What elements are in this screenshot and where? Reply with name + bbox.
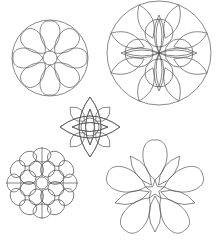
lotus-center — [60, 97, 120, 157]
dahlia — [6, 147, 78, 219]
mandala-coloring-page — [0, 0, 216, 248]
five-petal-flower — [106, 140, 203, 233]
circle-mandala-4-loop — [107, 1, 211, 105]
circle-flower-8-petal — [12, 20, 88, 96]
